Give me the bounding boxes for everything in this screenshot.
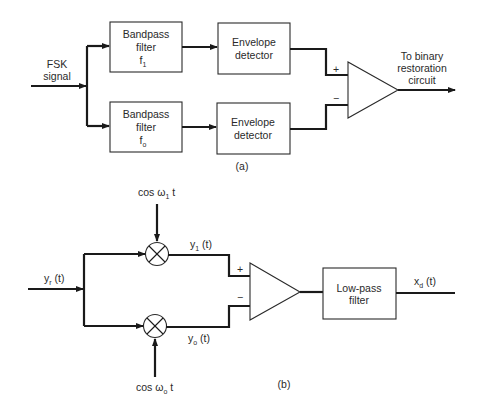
mixer-upper <box>146 243 169 266</box>
envelope-upper-line2: detector <box>235 49 273 61</box>
fsk-label-line2: signal <box>43 70 70 82</box>
output-a-label-line1: To binary <box>401 50 444 62</box>
fsk-receiver-diagrams: FSK signal Bandpass filter f1 Bandpass f… <box>0 0 478 415</box>
bandpass-fo-line2: filter <box>136 121 156 133</box>
envelope-lower-line2: detector <box>234 129 272 141</box>
env1-to-comparator-wire <box>290 49 348 75</box>
comparator-a <box>348 62 398 118</box>
caption-a: (a) <box>236 160 249 172</box>
mixer-lower <box>144 315 167 338</box>
yr-label: yr (t) <box>44 272 64 286</box>
bandpass-f1-line2: filter <box>136 41 156 53</box>
osc-lower-label: cos ωo t <box>136 381 173 395</box>
comparator-a-minus: − <box>333 92 339 104</box>
comparator-b <box>250 263 300 320</box>
output-a-label-line3: circuit <box>408 74 436 86</box>
figure-b: yr (t) cos ω1 t cos ωo t y1 (t) yo (t) +… <box>28 186 455 395</box>
comparator-b-minus: − <box>237 291 243 303</box>
output-a-label-line2: restoration <box>397 62 447 74</box>
y0-wire <box>166 306 250 327</box>
envelope-lower-line1: Envelope <box>231 116 275 128</box>
osc-upper-label: cos ω1 t <box>138 186 175 200</box>
lowpass-line2: filter <box>349 294 369 306</box>
fsk-label-line1: FSK <box>47 58 67 70</box>
caption-b: (b) <box>278 378 291 390</box>
y0-label: yo (t) <box>188 332 210 346</box>
figure-a: FSK signal Bandpass filter f1 Bandpass f… <box>31 22 455 172</box>
comparator-a-plus: + <box>333 63 339 75</box>
y1-label: y1 (t) <box>190 238 212 252</box>
envelope-upper-line1: Envelope <box>232 36 276 48</box>
bandpass-fo-line1: Bandpass <box>123 108 170 120</box>
lowpass-line1: Low-pass <box>337 282 382 294</box>
comparator-b-plus: + <box>237 263 243 275</box>
xd-label: xd (t) <box>414 275 436 289</box>
bandpass-f1-line1: Bandpass <box>123 28 170 40</box>
env0-to-comparator-wire <box>290 105 348 129</box>
